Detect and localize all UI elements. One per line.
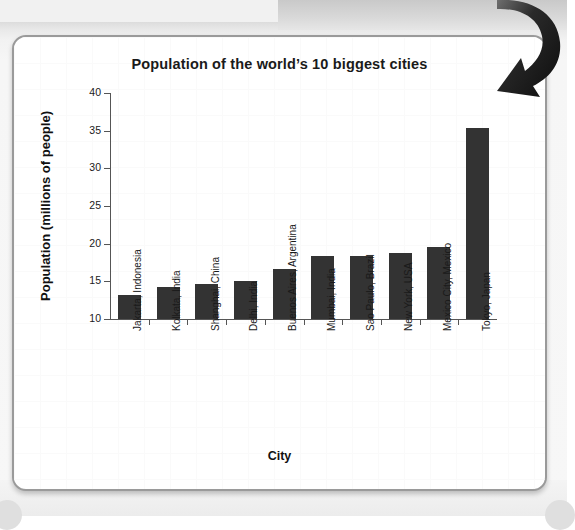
page-corner-blob-right [545, 500, 575, 530]
x-axis-tick-mark [381, 319, 382, 325]
x-axis-title: City [14, 449, 545, 463]
y-axis-tick-mark [104, 319, 110, 320]
x-axis-label: Tokyo, Japan [482, 272, 492, 331]
x-axis-tick-mark [458, 319, 459, 325]
y-axis-tick-mark [104, 244, 110, 245]
x-axis-tick-mark [342, 319, 343, 325]
x-axis-tick-mark [304, 319, 305, 325]
x-axis-tick-mark [420, 319, 421, 325]
x-axis-tick-mark [149, 319, 150, 325]
y-axis-line [110, 93, 111, 320]
y-axis-tick-label: 15 [89, 274, 101, 286]
y-axis-tick-label: 25 [89, 199, 101, 211]
chart-card: Population of the world’s 10 biggest cit… [12, 35, 547, 491]
x-axis-tick-mark [187, 319, 188, 325]
x-axis-label: Jakarta, Indonesia [133, 249, 143, 331]
x-axis-label: Sao Paulo, Brazil [366, 254, 376, 331]
y-axis-tick-mark [104, 168, 110, 169]
x-axis-tick-mark [265, 319, 266, 325]
x-axis-label: Shanghai, China [211, 257, 221, 331]
y-axis-tick-label: 35 [89, 124, 101, 136]
y-axis-tick-mark [104, 131, 110, 132]
y-axis-tick-mark [104, 206, 110, 207]
x-axis-label: Buenos Aires, Argentina [288, 224, 298, 331]
x-axis-label: Mumbai, India [327, 268, 337, 331]
plot-area: 10152025303540 Jakarta, IndonesiaKolkata… [110, 93, 497, 319]
page-background-top-right [278, 0, 567, 30]
y-axis-tick-label: 30 [89, 161, 101, 173]
chart-title: Population of the world’s 10 biggest cit… [14, 56, 545, 72]
page-background-top-left [0, 0, 278, 22]
page-corner-blob-left [0, 500, 22, 530]
y-axis-title: Population (millions of people) [38, 93, 54, 319]
y-axis-tick-label: 10 [89, 312, 101, 324]
y-axis-tick-mark [104, 281, 110, 282]
y-axis-tick-mark [104, 93, 110, 94]
x-axis-label: Delhi, India [249, 281, 259, 331]
x-axis-label: Mexico City, Mexico [443, 243, 453, 331]
x-axis-label: New York, USA [404, 263, 414, 331]
y-axis-tick-label: 40 [89, 86, 101, 98]
x-axis-tick-mark [226, 319, 227, 325]
x-axis-label: Kolkata, India [172, 270, 182, 331]
y-axis-tick-label: 20 [89, 237, 101, 249]
